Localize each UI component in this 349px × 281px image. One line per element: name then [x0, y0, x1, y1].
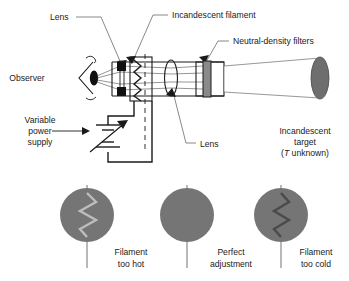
observer-eye-group — [79, 56, 98, 100]
label-incandescent-filament: Incandescent filament — [172, 10, 256, 20]
eyepiece-lens-upper — [117, 62, 126, 71]
caption-perfect-line2: adjustment — [210, 259, 253, 269]
eyepiece-lens-lower — [117, 87, 126, 96]
view-filament-too-cold: Filament too cold — [254, 185, 333, 269]
filament-group — [134, 54, 145, 150]
label-lens-top: Lens — [50, 12, 69, 22]
ray-mid-lower — [97, 80, 203, 84]
light-cone — [224, 58, 320, 98]
caption-perfect-line1: Perfect — [217, 247, 245, 257]
neutral-density-filter-group — [203, 61, 211, 97]
target-unknown-text: unknown) — [289, 148, 329, 158]
label-lens-bottom: Lens — [200, 139, 219, 149]
label-variable-power-supply-line3: supply — [28, 137, 54, 147]
eye-pupil — [90, 71, 98, 86]
ray-mid-upper — [97, 72, 203, 78]
label-incandescent-target-line1: Incandescent — [279, 126, 331, 136]
ray-upper — [97, 66, 203, 76]
diagram-canvas: Lens Incandescent filament Neutral-densi… — [0, 0, 349, 281]
power-supply-circuit-group — [90, 101, 152, 162]
leader-neutral-density-filters — [206, 41, 229, 62]
filament-zigzag — [134, 60, 141, 101]
view-filament-too-hot: Filament too hot — [60, 185, 148, 269]
eyepiece-disc-2 — [160, 188, 214, 242]
view-perfect-adjustment: Perfect adjustment — [160, 185, 253, 269]
incandescent-target-disc — [311, 57, 329, 99]
label-incandescent-target-line3: (T unknown) — [281, 148, 329, 158]
label-observer: Observer — [9, 73, 44, 83]
light-cone-group — [224, 57, 329, 99]
label-incandescent-target-line2: target — [294, 137, 317, 147]
ray-lower — [97, 82, 203, 90]
optical-pyrometer-diagram: Lens Incandescent filament Neutral-densi… — [0, 0, 349, 281]
eyebrow — [86, 56, 96, 63]
label-variable-power-supply-line2: power — [28, 126, 52, 136]
leader-incandescent-filament — [132, 15, 168, 63]
label-neutral-density-filters: Neutral-density filters — [233, 36, 314, 46]
leader-lens-top — [76, 17, 123, 68]
optical-rays-group — [97, 66, 203, 90]
caption-too-hot-line1: Filament — [115, 247, 149, 257]
eyepiece-lens-group — [117, 62, 126, 96]
arrowhead-power-supply — [82, 127, 90, 135]
caption-too-cold-line1: Filament — [300, 247, 334, 257]
lamp-housing — [130, 57, 152, 101]
neutral-density-filter — [203, 61, 211, 97]
eye-lower-lash — [86, 97, 96, 100]
caption-too-hot-line2: too hot — [118, 259, 145, 269]
caption-too-cold-line2: too cold — [301, 259, 331, 269]
label-variable-power-supply-line1: Variable — [25, 115, 56, 125]
